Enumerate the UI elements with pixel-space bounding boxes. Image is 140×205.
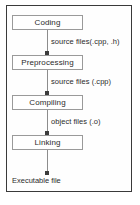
- stage-label-compiling: Compiling: [29, 99, 65, 107]
- diagram-frame: Coding source files(.cpp, .h) Preprocess…: [6, 5, 132, 192]
- stage-label-linking: Linking: [34, 139, 60, 147]
- connector-coding-to-preprocessing: [47, 30, 48, 52]
- stage-box-linking: Linking: [12, 135, 83, 150]
- connector-compiling-to-linking: [47, 110, 48, 132]
- connector-preprocessing-to-compiling: [47, 70, 48, 92]
- stage-box-coding: Coding: [12, 15, 83, 30]
- arrowhead-icon-4: [45, 171, 49, 175]
- stage-box-preprocessing: Preprocessing: [12, 55, 83, 70]
- edge-label-object-files-o: object files (.o): [51, 118, 101, 126]
- stage-box-compiling: Compiling: [12, 95, 83, 110]
- stage-label-preprocessing: Preprocessing: [21, 59, 73, 67]
- terminal-label-executable-file: Executable file: [12, 177, 61, 185]
- stage-label-coding: Coding: [35, 19, 61, 27]
- edge-label-source-files-cpp: source files (.cpp): [51, 78, 111, 86]
- edge-label-source-files-cpp-h: source files(.cpp, .h): [51, 38, 120, 46]
- connector-linking-to-executable: [47, 150, 48, 172]
